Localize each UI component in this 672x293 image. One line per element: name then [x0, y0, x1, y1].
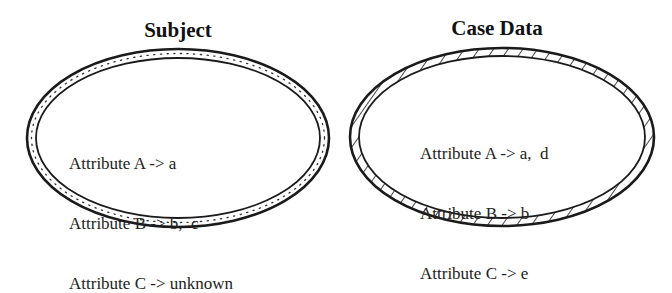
case-data-attribute-c: Attribute C -> e	[420, 264, 549, 284]
subject-attribute-a: Attribute A -> a	[69, 154, 233, 174]
subject-attribute-list: Attribute A -> a Attribute B -> b, c Att…	[69, 114, 233, 293]
subject-attribute-c: Attribute C -> unknown	[69, 274, 233, 293]
case-data-attribute-b: Attribute B -> b	[420, 204, 549, 224]
subject-title: Subject	[144, 18, 212, 43]
case-data-attribute-list: Attribute A -> a, d Attribute B -> b Att…	[420, 104, 549, 293]
subject-attribute-b: Attribute B -> b, c	[69, 214, 233, 234]
case-data-attribute-a: Attribute A -> a, d	[420, 144, 549, 164]
case-data-title: Case Data	[451, 16, 543, 41]
